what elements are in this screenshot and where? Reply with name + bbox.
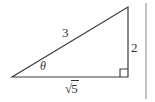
theta-angle-label: θ: [40, 60, 46, 72]
right-triangle-figure: 3 2 √5 θ: [0, 0, 155, 102]
right-angle-marker-icon: [120, 69, 128, 77]
radical-expression: √5: [65, 82, 79, 95]
opposite-side-length-label: 2: [131, 41, 138, 54]
adjacent-side-length-label: √5: [65, 82, 79, 95]
hypotenuse-length-label: 3: [62, 26, 69, 39]
triangle-outline: [12, 7, 128, 77]
radicand-value: 5: [71, 80, 79, 96]
